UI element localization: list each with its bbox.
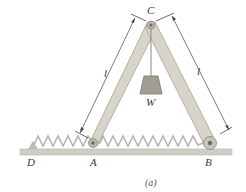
arrowhead [225,125,229,130]
truss-diagram: C W A B D l l (a) [0,0,246,192]
weight-w [140,76,162,94]
label-c: C [147,4,155,16]
ground [20,149,232,155]
arrowhead [80,127,84,133]
arrowhead [172,16,176,21]
arrowhead [131,18,135,23]
pin-c-center [149,23,152,26]
label-a: A [89,156,97,168]
label-length-right: l [197,65,200,77]
roller-b-center [208,141,212,145]
dim-tick-b [220,127,232,134]
spring [34,136,203,146]
label-length-left: l [104,67,107,79]
dim-tick-c-right [156,13,174,21]
caption: (a) [145,177,157,189]
pin-a-center [91,141,95,145]
anchor-d [28,141,38,149]
label-d: D [26,156,35,168]
label-w: W [146,96,156,108]
label-b: B [205,156,212,168]
